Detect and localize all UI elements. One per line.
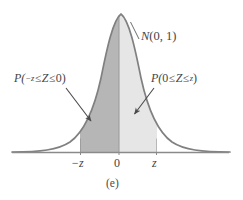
distribution-params: (0, 1) (149, 29, 176, 43)
x-tick-label-pos-z: z (152, 157, 157, 169)
right-prob-rel-1: ≤ (168, 72, 175, 84)
left-probability-label: P(−z≤Z≤0) (14, 72, 66, 85)
x-tick-label-zero: 0 (114, 157, 120, 169)
left-prob-rel-2: ≤ (48, 72, 55, 84)
distribution-label: N(0, 1) (141, 30, 176, 43)
normal-curve-chart (0, 0, 243, 200)
panel-caption: (e) (106, 178, 119, 190)
x-tick-label-neg-z: −z (71, 157, 84, 169)
right-prob-rel-2: ≤ (182, 72, 189, 84)
left-prob-prefix: P( (14, 71, 25, 85)
right-prob-prefix: P( (151, 71, 162, 85)
right-prob-suffix: ) (193, 71, 197, 85)
right-probability-label: P(0≤Z≤z) (151, 72, 197, 85)
left-prob-suffix: ) (62, 71, 66, 85)
normal-distribution-figure (0, 0, 243, 200)
left-annotation-arrow (66, 88, 91, 121)
left-prob-rel-1: ≤ (34, 72, 41, 84)
